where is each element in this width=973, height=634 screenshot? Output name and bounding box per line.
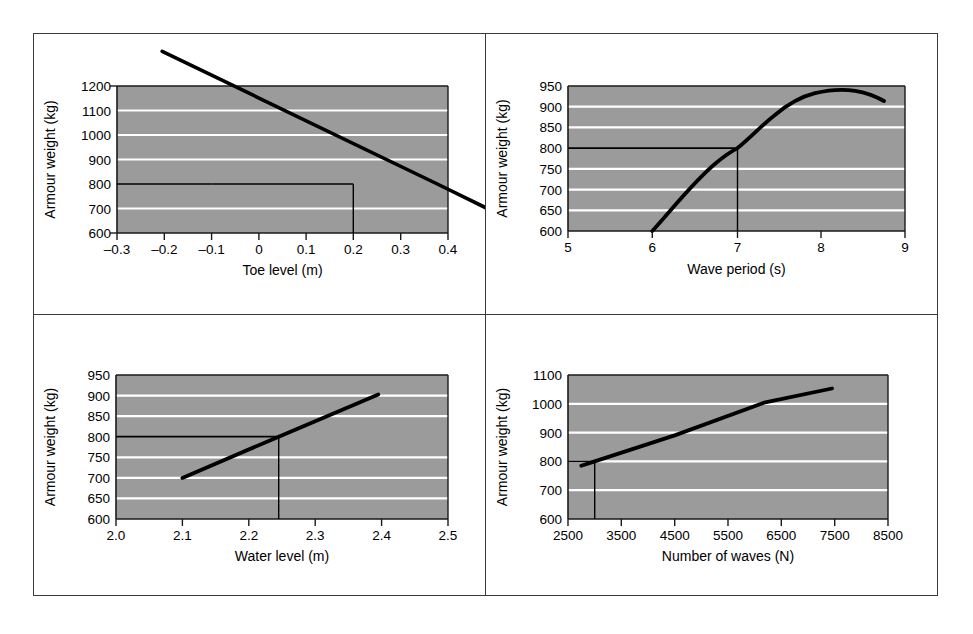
- xticklabel-1: –0.2: [151, 242, 177, 257]
- x-axis-label: Number of waves (N): [662, 548, 794, 564]
- yticklabel-1200: 1200: [81, 79, 111, 94]
- xticklabel-2: 4500: [660, 528, 690, 543]
- y-axis-label: Armour weight (kg): [42, 100, 58, 218]
- xticklabel-4: 9: [901, 240, 909, 255]
- yticklabel-700: 700: [87, 471, 110, 486]
- yticklabel-800: 800: [539, 141, 562, 156]
- yticklabel-900: 900: [539, 426, 562, 441]
- yticklabel-900: 900: [87, 389, 110, 404]
- xticklabel-3: 5500: [713, 528, 743, 543]
- yticklabel-600: 600: [539, 224, 562, 239]
- yticklabel-600: 600: [87, 512, 110, 527]
- xticklabel-2: 7: [734, 240, 742, 255]
- xticklabel-5: 0.2: [344, 242, 363, 257]
- xticklabel-4: 6500: [766, 528, 796, 543]
- x-axis-label: Water level (m): [235, 548, 329, 564]
- yticklabel-700: 700: [539, 183, 562, 198]
- xticklabel-4: 0.1: [297, 242, 316, 257]
- yticklabel-850: 850: [87, 409, 110, 424]
- yticklabel-600: 600: [88, 226, 111, 241]
- xticklabel-7: 0.4: [439, 242, 458, 257]
- chart-wave-period: 5 6 7 8 9 600 650 700 750 800 850 900 95…: [485, 33, 937, 314]
- xticklabel-1: 3500: [606, 528, 636, 543]
- yticklabel-1100: 1100: [533, 368, 562, 383]
- xticklabel-6: 8500: [873, 528, 903, 543]
- y-axis-label: Armour weight (kg): [494, 388, 510, 506]
- chart-water-level: 2.0 2.1 2.2 2.3 2.4 2.5 600 650 700 750 …: [33, 314, 485, 596]
- panel-wave-period: 5 6 7 8 9 600 650 700 750 800 850 900 95…: [485, 33, 937, 314]
- yticklabel-700: 700: [539, 483, 562, 498]
- figure-container: –0.3 –0.2 –0.1 0 0.1 0.2 0.3 0.4 600 700…: [0, 0, 973, 634]
- yticklabel-750: 750: [539, 162, 562, 177]
- xticklabel-5: 7500: [820, 528, 850, 543]
- xticklabel-3: 2.3: [306, 528, 325, 543]
- y-axis-label: Armour weight (kg): [494, 99, 510, 217]
- xticklabel-1: 2.1: [173, 528, 192, 543]
- y-axis-label: Armour weight (kg): [42, 388, 58, 506]
- xticklabel-3: 0: [255, 242, 263, 257]
- panel-water-level: 2.0 2.1 2.2 2.3 2.4 2.5 600 650 700 750 …: [33, 314, 485, 596]
- yticklabel-1100: 1100: [82, 104, 111, 119]
- xticklabel-6: 0.3: [391, 242, 410, 257]
- yticklabel-950: 950: [539, 79, 562, 94]
- xticklabel-2: 2.2: [239, 528, 258, 543]
- chart-toe-level: –0.3 –0.2 –0.1 0 0.1 0.2 0.3 0.4 600 700…: [33, 33, 485, 314]
- xticklabel-0: 5: [564, 240, 572, 255]
- yticklabel-800: 800: [539, 454, 562, 469]
- yticklabel-800: 800: [87, 430, 110, 445]
- panel-toe-level: –0.3 –0.2 –0.1 0 0.1 0.2 0.3 0.4 600 700…: [33, 33, 485, 314]
- plot-background: [568, 375, 888, 519]
- yticklabel-750: 750: [87, 450, 110, 465]
- yticklabel-600: 600: [539, 512, 562, 527]
- yticklabel-1000: 1000: [532, 397, 562, 412]
- yticklabel-1000: 1000: [81, 128, 111, 143]
- yticklabel-700: 700: [88, 202, 111, 217]
- plot-area-number-of-waves: [568, 375, 888, 526]
- plot-area-wave-period: [568, 86, 905, 238]
- xticklabel-0: 2.0: [107, 528, 126, 543]
- plot-area-water-level: [116, 375, 448, 526]
- xticklabel-0: –0.3: [104, 242, 130, 257]
- yticklabel-650: 650: [87, 491, 110, 506]
- xticklabel-5: 2.5: [439, 528, 458, 543]
- yticklabel-950: 950: [87, 368, 110, 383]
- x-axis-label: Toe level (m): [242, 262, 322, 278]
- yticklabel-900: 900: [88, 153, 111, 168]
- yticklabel-900: 900: [539, 100, 562, 115]
- xticklabel-3: 8: [817, 240, 825, 255]
- yticklabel-800: 800: [88, 177, 111, 192]
- panel-number-of-waves: 2500 3500 4500 5500 6500 7500 8500 600 7…: [485, 314, 937, 596]
- xticklabel-0: 2500: [553, 528, 583, 543]
- xticklabel-1: 6: [649, 240, 657, 255]
- xticklabel-4: 2.4: [372, 528, 391, 543]
- chart-number-of-waves: 2500 3500 4500 5500 6500 7500 8500 600 7…: [485, 314, 937, 596]
- yticklabel-850: 850: [539, 120, 562, 135]
- xticklabel-2: –0.1: [198, 242, 224, 257]
- x-axis-label: Wave period (s): [687, 261, 785, 277]
- plot-area-toe-level: [110, 51, 485, 240]
- yticklabel-650: 650: [539, 203, 562, 218]
